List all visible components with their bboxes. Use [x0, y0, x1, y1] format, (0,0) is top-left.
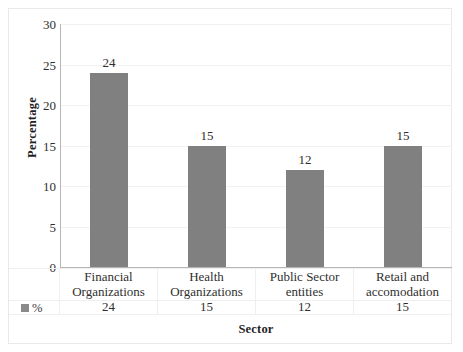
table-category-line-2: Organizations — [60, 284, 157, 299]
table-category-line-1: Health — [158, 269, 255, 284]
bar-financial-organizations[interactable] — [90, 73, 128, 267]
table-category-financial-organizations: Financial Organizations — [60, 269, 157, 299]
table-category-retail-and-accomodation: Retail and accomodation — [354, 269, 451, 299]
table-category-public-sector-entities: Public Sector entities — [256, 269, 353, 299]
table-column-health-organizations: Health Organizations 15 — [158, 268, 256, 315]
legend-label-percent: % — [32, 302, 42, 315]
bar-value-retail-and-accomodation: 15 — [397, 129, 410, 142]
legend-entry-percent: % — [21, 302, 42, 315]
y-tick-label-5: 5 — [12, 221, 56, 234]
bar-slot-public-sector-entities: 12 — [256, 24, 354, 267]
table-column-financial-organizations: Financial Organizations 24 — [60, 268, 158, 315]
bar-slot-retail-and-accomodation: 15 — [354, 24, 452, 267]
data-table: % Financial Organizations 24 Health Orga… — [9, 268, 451, 315]
y-tick-label-25: 25 — [12, 59, 56, 72]
x-axis-title: Sector — [60, 322, 452, 337]
bar-retail-and-accomodation[interactable] — [384, 146, 422, 268]
table-category-line-2: accomodation — [354, 284, 451, 299]
y-tick-label-30: 30 — [12, 18, 56, 31]
table-value-health-organizations: 15 — [158, 300, 255, 314]
table-value-public-sector-entities: 12 — [256, 300, 353, 314]
bar-health-organizations[interactable] — [188, 146, 226, 268]
table-column-retail-and-accomodation: Retail and accomodation 15 — [354, 268, 451, 315]
bar-slot-health-organizations: 15 — [158, 24, 256, 267]
bar-chart-figure: 30 25 20 15 10 5 0 Percentage 24 15 12 1… — [0, 0, 463, 352]
table-category-health-organizations: Health Organizations — [158, 269, 255, 299]
table-category-line-2: entities — [256, 284, 353, 299]
legend: % — [9, 268, 60, 315]
bar-slot-financial-organizations: 24 — [60, 24, 158, 267]
bar-value-public-sector-entities: 12 — [299, 153, 312, 166]
legend-swatch-icon — [21, 304, 29, 312]
bar-value-financial-organizations: 24 — [103, 56, 116, 69]
table-category-line-1: Retail and — [354, 269, 451, 284]
y-axis-title: Percentage — [25, 73, 40, 183]
table-value-retail-and-accomodation: 15 — [354, 300, 451, 314]
bar-value-health-organizations: 15 — [201, 129, 214, 142]
table-category-line-2: Organizations — [158, 284, 255, 299]
table-category-line-1: Public Sector — [256, 269, 353, 284]
table-category-line-1: Financial — [60, 269, 157, 284]
table-column-public-sector-entities: Public Sector entities 12 — [256, 268, 354, 315]
bars-layer: 24 15 12 15 — [60, 24, 452, 267]
table-value-financial-organizations: 24 — [60, 300, 157, 314]
bar-public-sector-entities[interactable] — [286, 170, 324, 267]
